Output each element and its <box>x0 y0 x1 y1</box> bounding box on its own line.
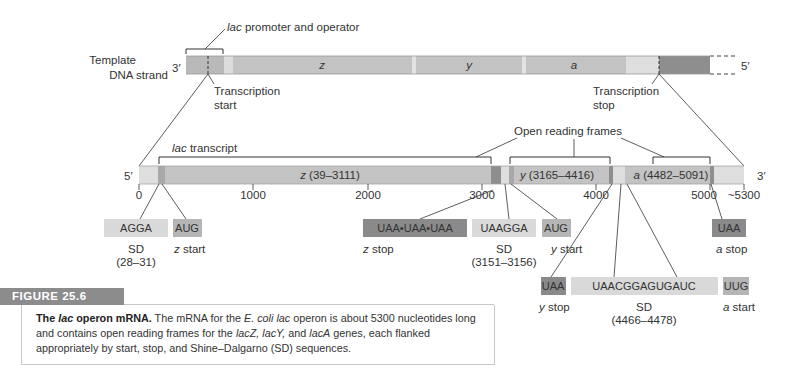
orf-label: Open reading frames <box>514 125 622 137</box>
tick-1000: 1000 <box>240 189 266 201</box>
svg-text:UAA: UAA <box>718 222 741 234</box>
orf-a-label: a (4482–5091) <box>634 169 709 181</box>
transcription-start-line1: Transcription <box>214 85 280 97</box>
svg-text:(4466–4478): (4466–4478) <box>611 314 676 326</box>
promoter-label: lac promoter and operator <box>227 21 359 33</box>
svg-text:AGGA: AGGA <box>120 222 152 234</box>
svg-text:z start: z start <box>173 243 206 255</box>
svg-text:y stop: y stop <box>538 301 570 313</box>
transcription-stop-line1: Transcription <box>593 85 659 97</box>
svg-text:y start: y start <box>550 243 583 255</box>
mrna-transcript: 5′ 3′ z (39–3111) y (3165–4416) a (4482–… <box>124 125 766 201</box>
leader-region <box>224 56 233 74</box>
promoter-bracket <box>186 49 223 54</box>
dna-gene-a-label: a <box>571 59 577 71</box>
projection-line-stop <box>659 74 744 166</box>
nucleotide-axis: 0 1000 2000 3000 4000 5000 ~5300 <box>136 184 760 201</box>
figure-number-tag: FIGURE 25.6 <box>0 288 124 305</box>
dna-3prime-end: 3′ <box>172 62 181 74</box>
dna-gene-z-label: z <box>318 59 325 71</box>
svg-text:UAA: UAA <box>542 280 565 292</box>
mrna-z-start-region <box>158 166 165 184</box>
tick-5300: ~5300 <box>728 189 760 201</box>
svg-text:UAAGGA: UAAGGA <box>480 222 528 234</box>
dna-label-line2: DNA strand <box>109 69 168 81</box>
orf-y-label: y (3165–4416) <box>519 169 594 181</box>
promoter-region <box>186 56 224 74</box>
dna-downstream <box>659 56 710 74</box>
svg-text:UUG: UUG <box>724 280 748 292</box>
lac-transcript-bracket <box>159 157 491 164</box>
svg-text:UAACGGAGUGAUC: UAACGGAGUGAUC <box>592 280 695 292</box>
dna-spacer-zy <box>412 56 416 74</box>
callout-y-stop: UAA y stop <box>538 277 570 313</box>
callout-sd-z: AGGA SD (28–31) <box>104 219 168 268</box>
caption-title: The lac operon mRNA. <box>36 312 152 324</box>
svg-text:AUG: AUG <box>175 222 199 234</box>
callout-a-start: UUG a start <box>723 277 756 313</box>
svg-text:SD: SD <box>496 243 512 255</box>
orf-z-label: z (39–3111) <box>299 169 360 181</box>
dna-trailer <box>626 56 659 74</box>
mrna-y-stop-region <box>609 166 613 184</box>
lac-transcript-label: lac transcript <box>172 142 238 154</box>
orf-a-bracket <box>653 157 710 164</box>
mrna-5utr <box>139 166 160 184</box>
svg-text:a start: a start <box>723 301 756 313</box>
dna-label-line1: Template <box>89 54 136 66</box>
tick-2000: 2000 <box>355 189 381 201</box>
figure-caption: The lac operon mRNA. The mRNA for the E.… <box>21 305 495 365</box>
dna-5prime-end: 5′ <box>741 60 750 72</box>
mrna-5prime-end: 5′ <box>124 170 133 182</box>
callout-a-stop: UAA a stop <box>712 219 747 255</box>
mrna-3prime-end: 3′ <box>757 170 766 182</box>
svg-text:(3151–3156): (3151–3156) <box>471 256 536 268</box>
mrna-a-stop-region <box>710 166 714 184</box>
mrna-intergenic-ya <box>613 166 625 184</box>
svg-text:SD: SD <box>636 301 652 313</box>
svg-text:AUG: AUG <box>544 222 568 234</box>
svg-text:a stop: a stop <box>716 243 747 255</box>
svg-text:UAA•UAA•UAA: UAA•UAA•UAA <box>377 222 453 234</box>
svg-text:SD: SD <box>128 243 144 255</box>
svg-text:z stop: z stop <box>362 243 394 255</box>
orf-y-bracket <box>510 157 610 164</box>
mrna-z-stop-region <box>491 166 501 184</box>
dna-spacer-ya <box>522 56 526 74</box>
callout-z-stop: UAA•UAA•UAA z stop <box>362 219 467 255</box>
callout-z-start: AUG z start <box>173 219 206 255</box>
svg-text:(28–31): (28–31) <box>116 256 156 268</box>
mrna-y-start-region <box>509 166 514 184</box>
transcription-start-line2: start <box>214 99 237 111</box>
callout-sd-a: UAACGGAGUGAUC SD (4466–4478) <box>571 277 718 326</box>
tick-0: 0 <box>136 189 142 201</box>
mrna-3utr <box>714 166 744 184</box>
transcription-stop-line2: stop <box>593 99 615 111</box>
mrna-intergenic-zy <box>501 166 509 184</box>
callout-sd-y: UAAGGA SD (3151–3156) <box>471 219 536 268</box>
